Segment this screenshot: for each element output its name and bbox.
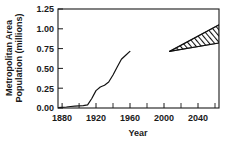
y-tick-label: 1.25 (36, 4, 54, 14)
y-tick-label: 0.25 (36, 84, 54, 94)
chart-figure: 1.25 1.00 0.75 0.50 0.25 0.00 1880 1920 … (0, 0, 230, 144)
y-axis-title-line2: Population (millions) (14, 14, 24, 103)
y-tick-label: 0.00 (36, 103, 54, 113)
x-tick-label: 1920 (86, 113, 106, 123)
x-axis-title: Year (128, 128, 148, 138)
x-tick-label: 1960 (120, 113, 140, 123)
y-axis-title: Metropolitan Area Population (millions) (4, 14, 24, 103)
x-tick-labels: 1880 1920 1960 2000 2040 (52, 113, 208, 123)
x-tick-label: 2000 (154, 113, 174, 123)
x-tick-label: 2040 (188, 113, 208, 123)
y-axis-title-line1: Metropolitan Area (4, 19, 14, 96)
y-tick-label: 1.00 (36, 24, 54, 34)
plot-area-background (58, 9, 219, 108)
population-projection-chart: 1.25 1.00 0.75 0.50 0.25 0.00 1880 1920 … (0, 0, 230, 144)
y-tick-label: 0.75 (36, 44, 54, 54)
y-tick-labels: 1.25 1.00 0.75 0.50 0.25 0.00 (36, 4, 54, 113)
y-tick-label: 0.50 (36, 64, 54, 74)
x-tick-label: 1880 (52, 113, 72, 123)
